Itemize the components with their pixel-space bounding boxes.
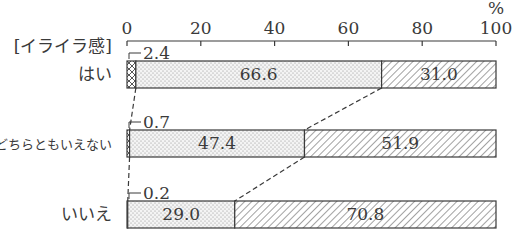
x-tick-label: 0: [122, 18, 133, 38]
value-label: 0.7: [143, 112, 170, 132]
bar-row: はい2.466.631.0: [78, 43, 496, 88]
category-label: いいえ: [61, 204, 112, 224]
x-tick-label: 100: [480, 18, 512, 38]
bar-row: どちらともいえない0.747.451.9: [0, 112, 496, 157]
value-label: 31.0: [420, 64, 458, 84]
x-tick-label: 40: [264, 18, 286, 38]
value-label: 66.6: [240, 64, 278, 84]
value-label: 51.9: [381, 133, 419, 153]
value-label: 0.2: [143, 183, 170, 203]
x-tick-label: 60: [338, 18, 360, 38]
bar-segment-segment-1: [127, 61, 136, 88]
value-label: 29.0: [162, 204, 200, 224]
x-axis: 020406080100: [122, 18, 513, 46]
bar-row: いいえ0.229.070.8: [61, 183, 496, 228]
category-label: どちらともいえない: [0, 137, 112, 152]
x-tick-label: 20: [190, 18, 212, 38]
unit-label: %: [488, 0, 504, 18]
value-label: 47.4: [198, 133, 236, 153]
group-label: [イライラ感]: [14, 36, 112, 56]
stacked-bar-chart: 020406080100 % [イライラ感] はい2.466.631.0どちらと…: [0, 0, 514, 235]
x-tick-label: 80: [411, 18, 433, 38]
value-label: 2.4: [143, 43, 170, 63]
value-label: 70.8: [346, 204, 384, 224]
category-label: はい: [78, 64, 112, 84]
bars: はい2.466.631.0どちらともいえない0.747.451.9いいえ0.22…: [0, 43, 496, 228]
